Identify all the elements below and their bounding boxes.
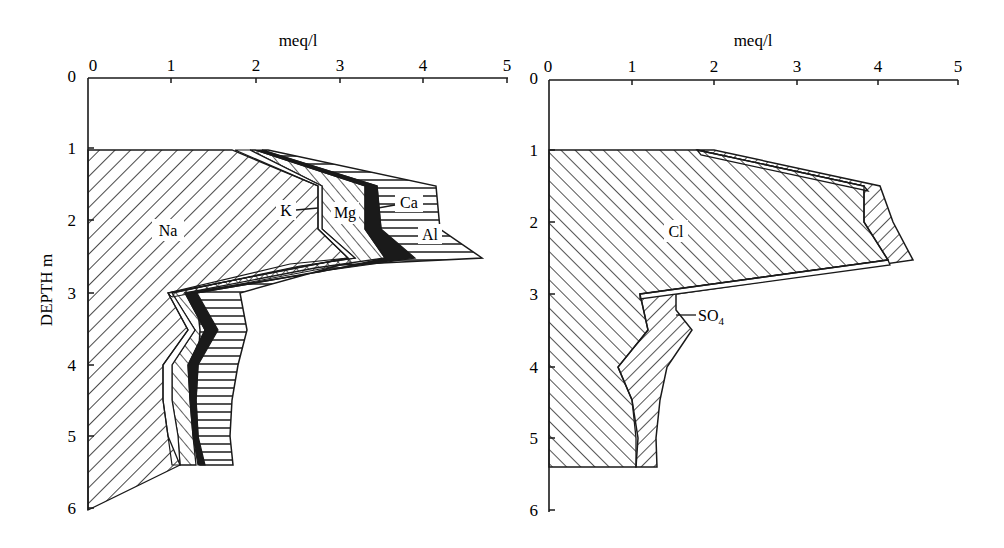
label-cl: Cl bbox=[668, 223, 684, 240]
label-na: Na bbox=[159, 222, 178, 239]
left-y-tick-1: 1 bbox=[68, 139, 77, 158]
left-y-tick-6: 6 bbox=[68, 499, 77, 518]
label-mg: Mg bbox=[334, 204, 356, 222]
left-y-tick-2: 2 bbox=[68, 211, 77, 230]
right-chart: 0 1 2 3 4 5 0 1 2 3 4 5 6 meq/l Cl SO4 bbox=[530, 31, 963, 520]
right-y-tick-1: 1 bbox=[530, 141, 539, 160]
label-so4: SO4 bbox=[698, 307, 724, 327]
right-x-tick-5: 5 bbox=[954, 57, 963, 76]
cl-area bbox=[549, 150, 888, 467]
left-x-tick-1: 1 bbox=[167, 56, 176, 75]
right-y-tick-0: 0 bbox=[530, 69, 539, 88]
left-y-tick-0: 0 bbox=[68, 67, 77, 86]
label-al: Al bbox=[422, 226, 439, 243]
right-y-tick-2: 2 bbox=[530, 213, 539, 232]
right-x-tick-0: 0 bbox=[544, 57, 553, 76]
left-y-tick-5: 5 bbox=[68, 427, 77, 446]
left-x-tick-0: 0 bbox=[89, 56, 98, 75]
left-x-tick-5: 5 bbox=[503, 56, 512, 75]
right-x-tick-1: 1 bbox=[628, 57, 637, 76]
left-x-tick-3: 3 bbox=[336, 56, 345, 75]
label-ca: Ca bbox=[400, 194, 418, 211]
right-y-tick-3: 3 bbox=[530, 285, 539, 304]
left-y-tick-3: 3 bbox=[68, 284, 77, 303]
right-x-tick-2: 2 bbox=[710, 57, 719, 76]
left-x-tick-2: 2 bbox=[252, 56, 261, 75]
left-x-tick-4: 4 bbox=[419, 56, 428, 75]
right-x-tick-4: 4 bbox=[874, 57, 883, 76]
right-y-tick-6: 6 bbox=[530, 501, 539, 520]
left-chart: 0 1 2 3 4 5 0 1 2 3 4 5 6 meq/l DEPTH m … bbox=[37, 31, 511, 518]
right-x-tick-3: 3 bbox=[793, 57, 802, 76]
chart-canvas: 0 1 2 3 4 5 0 1 2 3 4 5 6 meq/l DEPTH m … bbox=[0, 0, 1004, 548]
label-k: K bbox=[280, 202, 292, 219]
left-y-tick-4: 4 bbox=[68, 356, 77, 375]
left-y-axis-title: DEPTH m bbox=[37, 254, 56, 326]
right-y-tick-5: 5 bbox=[530, 429, 539, 448]
right-x-axis-title: meq/l bbox=[734, 31, 773, 50]
left-x-axis-title: meq/l bbox=[279, 31, 318, 50]
right-y-tick-4: 4 bbox=[530, 358, 539, 377]
